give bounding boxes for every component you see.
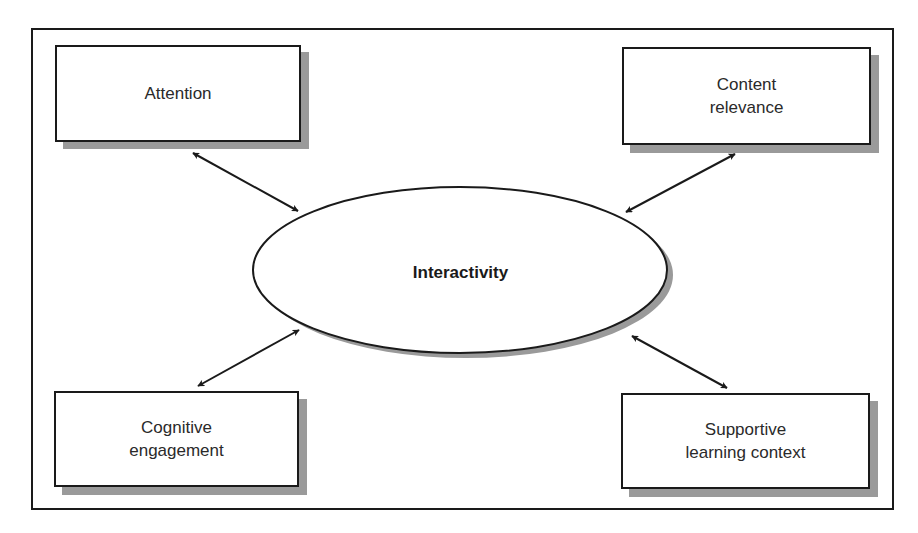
center-label: Interactivity (253, 186, 668, 353)
